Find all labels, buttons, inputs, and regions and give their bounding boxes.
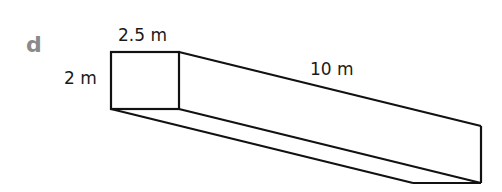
height-label: 2 m <box>64 70 97 87</box>
length-label: 10 m <box>310 61 354 78</box>
bottom-edge <box>111 109 413 183</box>
width-label: 2.5 m <box>118 27 167 44</box>
cuboid-drawing <box>0 0 502 192</box>
middle-edge <box>179 109 481 183</box>
part-label: d <box>26 34 42 56</box>
front-face <box>111 52 179 109</box>
diagram-canvas: d 2.5 m 2 m 10 m <box>0 0 502 192</box>
